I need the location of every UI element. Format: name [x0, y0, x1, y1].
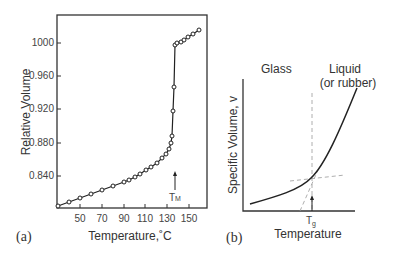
x-axis-label-a: Temperature,˚C	[88, 229, 172, 243]
y-axis-label-a: Relative Volume	[19, 68, 33, 155]
extrapolation-lines	[290, 93, 345, 211]
series-specific-volume	[250, 88, 357, 204]
glass-label: Glass	[261, 62, 292, 76]
x-tick: 70	[96, 213, 108, 224]
x-tick: 130	[159, 213, 176, 224]
arrowhead-icon	[310, 195, 314, 200]
plot-b-axes	[243, 79, 355, 211]
x-tick: 90	[118, 213, 130, 224]
panel-label-b: (b)	[226, 230, 243, 246]
y-tick: 1000	[32, 37, 55, 48]
panel-label-a: (a)	[16, 229, 32, 245]
data-markers	[56, 28, 201, 208]
x-tick: 150	[181, 213, 198, 224]
rubber-label: (or rubber)	[320, 76, 377, 90]
x-tick: 50	[74, 213, 86, 224]
arrowhead-icon	[173, 171, 177, 176]
figure: 1000 0.960 0.920 0.880 0.840 50 70 90 11…	[0, 0, 402, 253]
x-tick: 110	[137, 213, 153, 224]
liquid-label: Liquid	[329, 62, 361, 76]
tm-label: TM	[169, 192, 181, 203]
y-axis-label-b: Specific Volume, v	[226, 96, 240, 194]
x-axis-label-b: Temperature	[274, 227, 342, 241]
y-tick: 0.840	[29, 170, 54, 181]
